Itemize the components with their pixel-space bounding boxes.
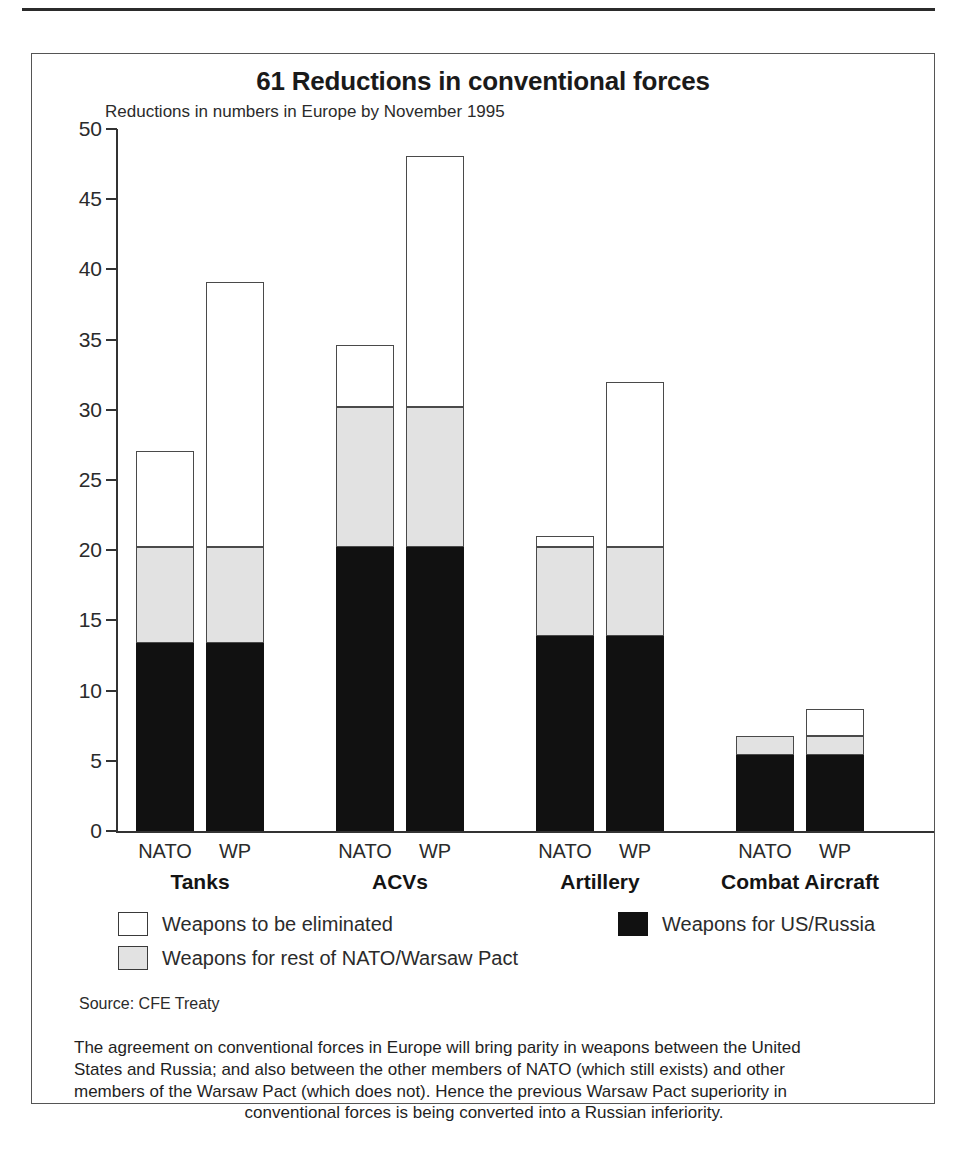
legend-swatch-grey [118, 946, 148, 970]
y-axis-tick [106, 268, 117, 270]
legend-label: Weapons to be eliminated [162, 913, 393, 936]
bar-segment-us-russia [136, 643, 194, 831]
stacked-bar [336, 54, 394, 831]
y-axis-tick [106, 830, 117, 832]
figure-frame: 61 Reductions in conventional forces Red… [31, 53, 935, 1104]
stacked-bar [806, 54, 864, 831]
y-axis-tick [106, 619, 117, 621]
legend-item: Weapons for rest of NATO/Warsaw Pact [118, 946, 518, 970]
caption-line-2: States and Russia; and also between the … [74, 1059, 894, 1081]
y-axis-tick [106, 760, 117, 762]
legend-swatch-white [118, 912, 148, 936]
bar-segment-us-russia [536, 636, 594, 831]
legend-label: Weapons for US/Russia [662, 913, 875, 936]
y-axis-tick-label-text: 0 [36, 820, 102, 841]
bar-segment-eliminated [536, 536, 594, 547]
y-axis-tick-label-text: 40 [36, 258, 102, 279]
bar-segment-rest [136, 547, 194, 642]
caption-line-3: members of the Warsaw Pact (which does n… [74, 1081, 894, 1103]
x-axis-group-label: Combat Aircraft [680, 870, 920, 894]
y-axis-tick-label-text: 35 [36, 329, 102, 350]
page-top-rule [22, 8, 935, 11]
x-axis-bar-label: WP [390, 840, 480, 863]
stacked-bar [536, 54, 594, 831]
y-axis-tick [106, 690, 117, 692]
y-axis-tick [106, 409, 117, 411]
y-axis-tick [106, 128, 117, 130]
bar-segment-us-russia [406, 547, 464, 831]
y-axis-tick-label-text: 10 [36, 680, 102, 701]
y-axis-tick-label-text: 5 [36, 750, 102, 771]
source-note: Source: CFE Treaty [79, 995, 220, 1013]
stacked-bar [406, 54, 464, 831]
bar-segment-rest [806, 736, 864, 756]
y-axis-tick [106, 479, 117, 481]
y-axis-tick [106, 198, 117, 200]
caption-line-4: conventional forces is being converted i… [74, 1102, 894, 1124]
bar-segment-rest [406, 407, 464, 547]
bar-segment-rest [736, 736, 794, 756]
y-axis-tick-label-text: 30 [36, 399, 102, 420]
y-axis-tick [106, 339, 117, 341]
y-axis-tick-label-text: 20 [36, 539, 102, 560]
bar-segment-us-russia [806, 755, 864, 831]
x-axis-line [116, 831, 934, 833]
stacked-bar [606, 54, 664, 831]
bar-segment-us-russia [606, 636, 664, 831]
legend-item: Weapons to be eliminated [118, 912, 393, 936]
bar-segment-rest [536, 547, 594, 635]
legend-label: Weapons for rest of NATO/Warsaw Pact [162, 947, 518, 970]
stacked-bar [736, 54, 794, 831]
y-axis-tick-label-text: 15 [36, 609, 102, 630]
y-axis-tick-label-text: 50 [36, 118, 102, 139]
stacked-bar [206, 54, 264, 831]
figure-caption: The agreement on conventional forces in … [74, 1037, 894, 1124]
bar-segment-eliminated [206, 282, 264, 547]
legend-item: Weapons for US/Russia [618, 912, 875, 936]
x-axis-bar-label: WP [790, 840, 880, 863]
bar-segment-eliminated [136, 451, 194, 548]
bar-segment-eliminated [806, 709, 864, 736]
bar-segment-eliminated [406, 156, 464, 407]
bar-segment-us-russia [736, 755, 794, 831]
y-axis-tick [106, 549, 117, 551]
bar-segment-rest [206, 547, 264, 642]
bar-segment-rest [336, 407, 394, 547]
legend-swatch-black [618, 912, 648, 936]
y-axis-tick-label-text: 45 [36, 188, 102, 209]
x-axis-bar-label: WP [590, 840, 680, 863]
bar-segment-us-russia [336, 547, 394, 831]
bar-segment-us-russia [206, 643, 264, 831]
y-axis-tick-label-text: 25 [36, 469, 102, 490]
bar-segment-eliminated [606, 382, 664, 548]
bar-segment-eliminated [336, 345, 394, 407]
bar-segment-rest [606, 547, 664, 635]
caption-line-1: The agreement on conventional forces in … [74, 1037, 894, 1059]
x-axis-bar-label: WP [190, 840, 280, 863]
stacked-bar [136, 54, 194, 831]
